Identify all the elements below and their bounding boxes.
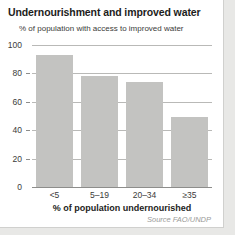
y-tick-mark bbox=[26, 130, 30, 131]
y-tick-label: 20 bbox=[13, 154, 22, 164]
x-tick-label: ≥35 bbox=[167, 190, 212, 200]
plot-area bbox=[32, 45, 212, 187]
chart-figure: Undernourishment and improved water % of… bbox=[0, 0, 224, 228]
x-tick-label: <5 bbox=[32, 190, 77, 200]
x-tick-label: 20–34 bbox=[122, 190, 167, 200]
bar bbox=[81, 76, 118, 187]
y-tick-mark bbox=[26, 159, 30, 160]
y-axis-title: % of population with access to improved … bbox=[19, 24, 184, 33]
gridline bbox=[32, 187, 212, 188]
y-tick-label: 0 bbox=[17, 182, 22, 192]
gridline bbox=[32, 45, 212, 46]
x-tick-label: 5–19 bbox=[77, 190, 122, 200]
y-tick-mark bbox=[26, 102, 30, 103]
y-tick-label: 100 bbox=[8, 40, 22, 50]
x-axis-title: % of population undernourished bbox=[32, 203, 212, 213]
y-axis-ticks: 020406080100 bbox=[0, 45, 30, 187]
y-tick-label: 60 bbox=[13, 97, 22, 107]
source-note: Source FAO/UNDP bbox=[147, 215, 211, 224]
bar bbox=[36, 55, 73, 187]
y-tick-label: 40 bbox=[13, 125, 22, 135]
bar bbox=[126, 82, 163, 187]
y-tick-label: 80 bbox=[13, 68, 22, 78]
x-axis-ticks: <55–1920–34≥35 bbox=[32, 190, 212, 202]
bar bbox=[171, 117, 208, 187]
y-tick-mark bbox=[26, 73, 30, 74]
chart-title: Undernourishment and improved water bbox=[8, 6, 201, 18]
